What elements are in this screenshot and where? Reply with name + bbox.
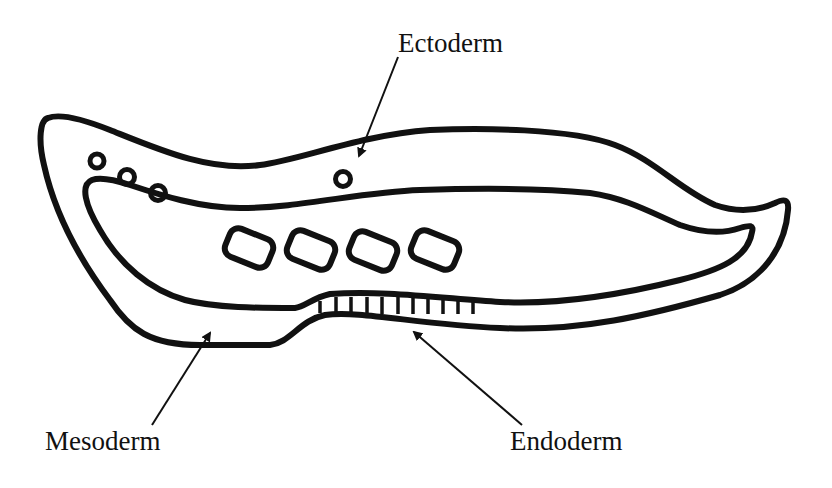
mesoderm-label: Mesoderm [45, 428, 160, 455]
ectoderm-pore-2 [120, 170, 135, 185]
organ-1 [222, 225, 276, 270]
ectoderm-pore-4 [336, 172, 351, 187]
inner-body-outline [85, 179, 752, 308]
organ-2 [284, 227, 338, 272]
organ-3 [346, 228, 400, 273]
ectoderm-leader-arrow [359, 57, 398, 156]
organ-4 [408, 227, 462, 272]
endoderm-leader-arrow [414, 332, 522, 425]
ectoderm-label: Ectoderm [398, 30, 503, 57]
endoderm-label: Endoderm [510, 428, 622, 455]
flatworm-diagram [0, 0, 832, 488]
ectoderm-pore-1 [90, 154, 104, 168]
